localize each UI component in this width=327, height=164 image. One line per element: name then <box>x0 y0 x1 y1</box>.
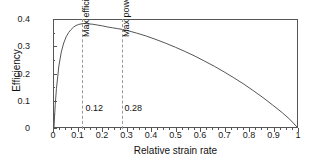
y-tick-label: 0.2 <box>17 69 30 78</box>
x-tick-minor <box>114 128 115 130</box>
x-tick-minor <box>286 128 287 130</box>
x-tick-label: 0 <box>50 131 55 140</box>
x-tick-label: 0.4 <box>145 131 158 140</box>
x-tick-label: 1 <box>295 131 300 140</box>
x-axis-title: Relative strain rate <box>53 145 298 156</box>
x-tick-minor <box>157 128 158 130</box>
x-tick-minor <box>182 128 183 130</box>
x-tick-minor <box>206 128 207 130</box>
marker-value-max-efficiency: 0.12 <box>85 103 103 113</box>
x-tick-minor <box>145 128 146 130</box>
x-tick-label: 0.7 <box>218 131 231 140</box>
x-tick-minor <box>194 128 195 130</box>
x-tick-minor <box>139 128 140 130</box>
x-tick-label: 0.8 <box>243 131 256 140</box>
x-tick-minor <box>163 128 164 130</box>
x-tick-minor <box>292 128 293 130</box>
y-tick-label: 0.3 <box>17 42 30 51</box>
x-tick-label: 0.3 <box>120 131 133 140</box>
x-tick-label: 0.6 <box>194 131 207 140</box>
x-tick-minor <box>169 128 170 130</box>
marker-label-max-power: Max power <box>121 0 131 37</box>
marker-value-max-power: 0.28 <box>125 103 143 113</box>
x-tick-minor <box>90 128 91 130</box>
x-tick-label: 0.5 <box>169 131 182 140</box>
x-tick-minor <box>84 128 85 130</box>
x-tick-minor <box>59 128 60 130</box>
x-tick-minor <box>212 128 213 130</box>
y-tick-major <box>53 128 57 129</box>
x-tick-minor <box>237 128 238 130</box>
y-tick-label: 0.4 <box>17 15 30 24</box>
x-tick-label: 0.1 <box>71 131 84 140</box>
x-tick-label: 0.2 <box>96 131 109 140</box>
efficiency-chart-figure: Efficiency 00.10.20.30.40.50.60.70.80.91… <box>0 0 327 164</box>
x-tick-minor <box>108 128 109 130</box>
x-tick-minor <box>231 128 232 130</box>
x-tick-minor <box>71 128 72 130</box>
x-tick-minor <box>243 128 244 130</box>
y-tick-label: 0 <box>25 124 30 133</box>
x-tick-minor <box>267 128 268 130</box>
x-tick-minor <box>261 128 262 130</box>
y-tick-label: 0.1 <box>17 96 30 105</box>
marker-label-max-efficiency: Max efficiency <box>81 0 91 37</box>
x-tick-minor <box>280 128 281 130</box>
x-tick-label: 0.9 <box>267 131 280 140</box>
x-tick-minor <box>96 128 97 130</box>
x-tick-minor <box>255 128 256 130</box>
x-tick-minor <box>65 128 66 130</box>
x-tick-minor <box>218 128 219 130</box>
x-tick-minor <box>188 128 189 130</box>
x-tick-minor <box>133 128 134 130</box>
